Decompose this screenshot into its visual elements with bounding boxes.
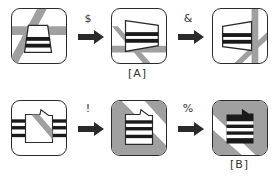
black-flag-document-icon bbox=[213, 101, 267, 155]
transition-symbol-1: $ bbox=[78, 12, 98, 25]
panel-3 bbox=[212, 8, 268, 64]
right-arrow-icon bbox=[178, 30, 204, 44]
panel-1 bbox=[11, 8, 67, 64]
rotated-trapezoid-stack-icon bbox=[112, 9, 166, 63]
panel-5 bbox=[111, 100, 167, 156]
panel-4 bbox=[11, 100, 67, 156]
flag-document-icon bbox=[12, 101, 66, 155]
label-a: [A] bbox=[128, 67, 147, 80]
gray-flag-document-icon bbox=[112, 101, 166, 155]
trapezoid-stack-icon bbox=[12, 9, 66, 63]
panel-2 bbox=[111, 8, 167, 64]
transition-symbol-4: % bbox=[178, 102, 198, 115]
right-arrow-icon bbox=[78, 30, 104, 44]
transition-symbol-3: ! bbox=[78, 102, 98, 115]
panel-6 bbox=[212, 100, 268, 156]
mirrored-trapezoid-stack-icon bbox=[213, 9, 267, 63]
transition-symbol-2: & bbox=[178, 12, 198, 25]
right-arrow-icon bbox=[178, 122, 204, 136]
label-b: [B] bbox=[230, 158, 249, 171]
right-arrow-icon bbox=[78, 122, 104, 136]
